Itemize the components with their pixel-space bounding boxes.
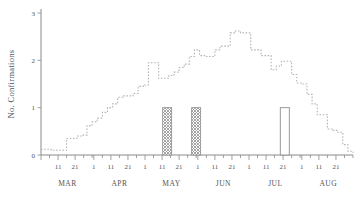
y-axis-title: No. Confirmations bbox=[6, 50, 16, 119]
x-axis-tick-label: 11 bbox=[316, 163, 323, 171]
x-axis-tick-label: 21 bbox=[72, 163, 80, 171]
x-axis-tick-label: 1 bbox=[247, 163, 251, 171]
x-axis-tick-label: 1 bbox=[92, 163, 96, 171]
x-axis-tick-label: 1 bbox=[196, 163, 200, 171]
x-axis-tick-label: 11 bbox=[159, 163, 166, 171]
epidemic-curve-chart: 0123No. Confirmations1121111211112111121… bbox=[0, 0, 363, 199]
x-axis-tick-label: 11 bbox=[263, 163, 270, 171]
y-axis-tick-label: 0 bbox=[32, 152, 36, 160]
y-axis-tick-label: 2 bbox=[32, 57, 36, 65]
y-axis-tick-label: 1 bbox=[32, 104, 36, 112]
x-axis-tick-label: 21 bbox=[332, 163, 340, 171]
x-axis-tick-label: 11 bbox=[108, 163, 115, 171]
x-axis-month-label: JUL bbox=[268, 179, 282, 188]
x-axis-tick-label: 21 bbox=[228, 163, 236, 171]
x-axis-tick-label: 11 bbox=[55, 163, 62, 171]
x-axis-tick-label: 11 bbox=[212, 163, 219, 171]
data-bar-crosshatch bbox=[192, 108, 201, 155]
x-axis-month-label: APR bbox=[111, 179, 127, 188]
data-bar-open bbox=[280, 108, 289, 155]
x-axis-month-label: MAR bbox=[58, 179, 77, 188]
x-axis-tick-label: 1 bbox=[300, 163, 304, 171]
x-axis-tick-label: 21 bbox=[124, 163, 132, 171]
data-bar-crosshatch bbox=[163, 108, 172, 155]
y-axis-tick-label: 3 bbox=[32, 10, 36, 18]
x-axis-month-label: MAY bbox=[162, 179, 180, 188]
x-axis-tick-label: 21 bbox=[280, 163, 288, 171]
x-axis-month-label: AUG bbox=[319, 179, 337, 188]
x-axis-month-label: JUN bbox=[216, 179, 231, 188]
chart-canvas: 0123No. Confirmations1121111211112111121… bbox=[0, 0, 363, 199]
x-axis-tick-label: 21 bbox=[176, 163, 184, 171]
x-axis-tick-label: 1 bbox=[143, 163, 147, 171]
